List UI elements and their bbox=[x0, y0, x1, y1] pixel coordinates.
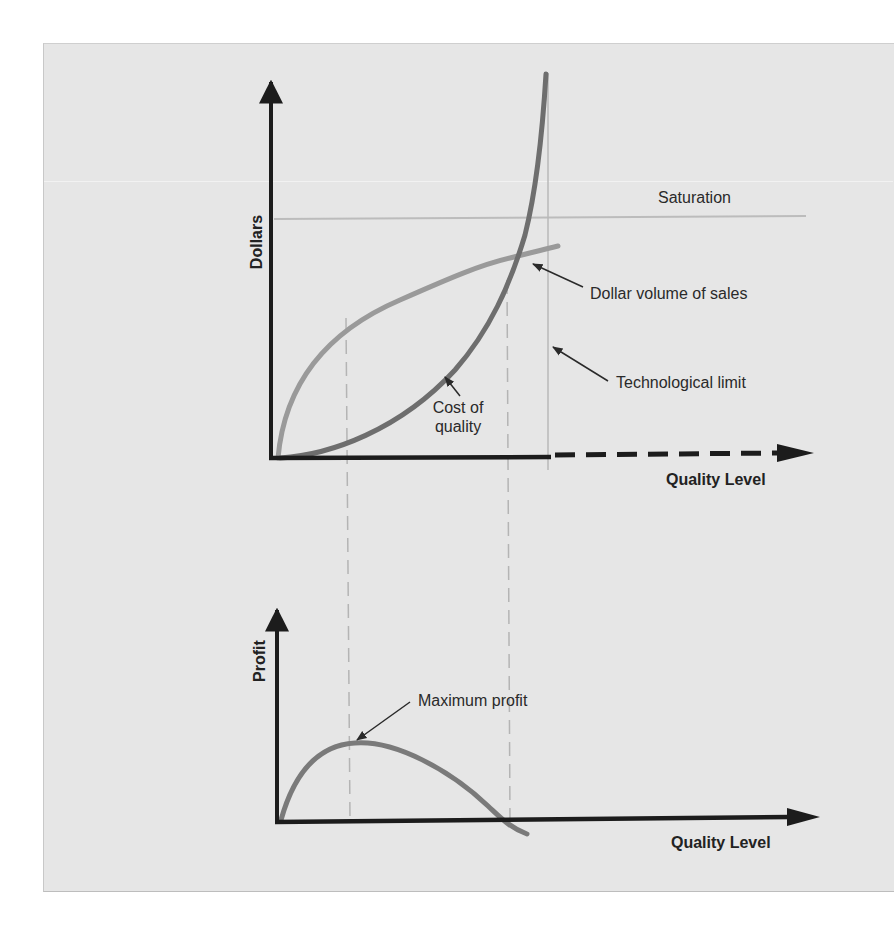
quality-level-axis-label-bottom: Quality Level bbox=[671, 835, 771, 851]
saturation-label: Saturation bbox=[658, 190, 731, 206]
breakeven-guide-line bbox=[507, 280, 510, 820]
saturation-line bbox=[274, 216, 806, 219]
max-profit-pointer-arrow bbox=[357, 702, 410, 740]
top-chart bbox=[269, 73, 814, 820]
profit-axis-label: Profit bbox=[252, 631, 268, 691]
quality-x-axis-bottom bbox=[275, 817, 790, 822]
quality-x-axis-dashed bbox=[555, 453, 780, 455]
cost-of-quality-curve bbox=[280, 74, 546, 458]
bottom-chart bbox=[275, 610, 820, 834]
quality-x-axis-bottom-arrowhead bbox=[787, 808, 820, 826]
maximum-profit-label: Maximum profit bbox=[418, 693, 527, 709]
quality-level-axis-label-top: Quality Level bbox=[666, 472, 766, 488]
cost-of-quality-label: Cost of quality bbox=[418, 398, 498, 436]
dollars-axis-label: Dollars bbox=[249, 212, 265, 272]
quality-x-axis-arrowhead bbox=[777, 444, 814, 462]
cost-pointer-arrow bbox=[445, 377, 460, 396]
sales-label: Dollar volume of sales bbox=[590, 286, 747, 302]
tech-limit-pointer-arrow bbox=[553, 347, 608, 381]
sales-pointer-arrow bbox=[533, 264, 583, 287]
quality-x-axis-solid bbox=[269, 457, 551, 458]
technological-limit-label: Technological limit bbox=[616, 375, 746, 391]
